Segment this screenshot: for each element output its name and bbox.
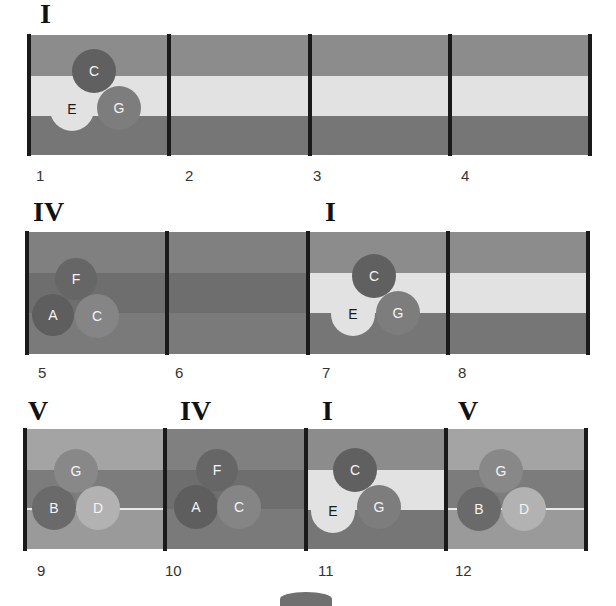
note-b: B [457,487,501,531]
measure-number: 1 [36,168,44,183]
bar-line [584,428,588,551]
measure-7: E C G [308,232,448,354]
bar-line [163,428,167,551]
band-bottom [167,313,308,354]
note-b: B [32,486,76,530]
measure-number: 8 [458,365,466,380]
measure-number: 6 [175,365,183,380]
measure-3 [309,35,450,155]
measure-number: 5 [38,365,46,380]
measure-8 [448,232,588,354]
measure-9: B G D [25,429,165,549]
measure-4 [450,35,589,155]
note-g: G [479,449,523,493]
bar-line [448,34,452,156]
band-middle [448,273,588,313]
bar-line [586,231,590,355]
note-g: G [97,86,141,130]
band-top [448,232,588,273]
note-g: G [357,485,401,529]
note-c: C [217,485,261,529]
band-top [27,232,167,273]
measure-number: 9 [37,563,45,578]
note-c: C [72,49,116,93]
note-f: F [196,449,238,491]
bar-line [588,34,592,156]
chord-label-IV: IV [180,397,211,425]
bar-line [306,231,310,355]
chord-label-IV: IV [33,198,64,226]
note-c: C [75,294,119,338]
bar-line [308,34,312,156]
note-d: D [502,487,546,531]
note-a: A [174,485,218,529]
chord-label-I: I [322,397,333,425]
bar-line [165,231,169,355]
measure-10: A F C [165,429,305,549]
note-e: E [50,87,94,131]
band-top [167,232,308,273]
measure-1: E C G [29,35,168,155]
chord-label-I: I [40,0,51,28]
band-bottom [450,116,589,155]
measure-2 [168,35,309,155]
bar-line [23,428,27,551]
band-middle [168,76,309,116]
band-middle [167,273,308,313]
note-g: G [376,291,420,335]
bar-line [444,428,448,551]
chord-label-V: V [28,397,48,425]
band-bottom [29,116,168,155]
band-top [450,35,589,76]
measure-number: 7 [322,365,330,380]
measure-number: 2 [185,168,193,183]
measure-6 [167,232,308,354]
bar-line [304,428,308,551]
chord-label-V: V [458,397,478,425]
band-middle [450,76,589,116]
measure-number: 4 [461,168,469,183]
measure-number: 12 [455,563,472,578]
cropped-shape [280,592,332,606]
band-top [309,35,450,76]
band-bottom [309,116,450,155]
bar-line [167,34,171,156]
band-bottom [168,116,309,155]
note-e: E [311,489,355,533]
measure-5: A F C [27,232,167,354]
bar-line [446,231,450,355]
band-bottom [448,313,588,354]
bar-line [27,34,31,156]
chord-label-I: I [325,198,336,226]
note-e: E [331,292,375,336]
note-a: A [32,294,74,336]
measure-number: 10 [165,563,182,578]
measure-number: 3 [313,168,321,183]
band-middle [309,76,450,116]
note-d: D [76,486,120,530]
bar-line [25,231,29,355]
measure-11: E C G [305,429,445,549]
band-top [168,35,309,76]
measure-12: B G D [445,429,585,549]
measure-number: 11 [318,563,334,578]
